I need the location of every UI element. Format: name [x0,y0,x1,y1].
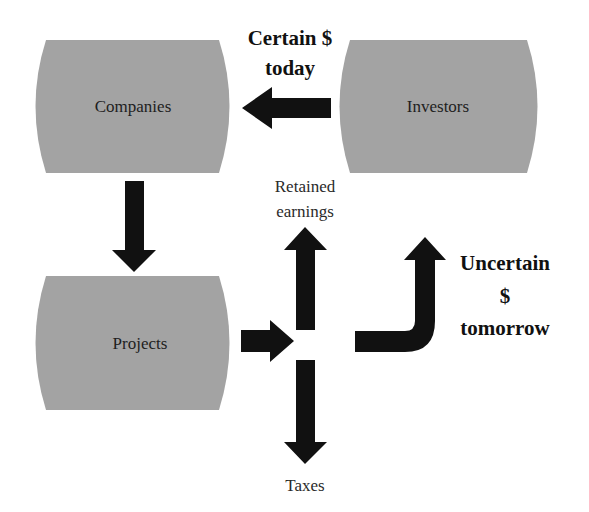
certain-today-label-line2: today [265,56,316,80]
retained-earnings-label-line1: Retained [275,177,336,196]
right-arrow-icon [241,320,294,362]
investors-to-companies-flow: Certain $ today [242,26,332,129]
companies-label: Companies [95,97,172,116]
down-arrow-icon [284,360,327,464]
taxes-flow: Taxes [284,360,327,495]
investors-label: Investors [407,97,469,116]
uncertain-tomorrow-label-line1: Uncertain [460,251,550,275]
projects-to-split-flow [241,320,294,362]
companies-node: Companies [36,40,230,173]
retained-earnings-label-line2: earnings [276,202,334,221]
projects-label: Projects [113,334,168,353]
retained-earnings-flow: Retained earnings [275,177,336,330]
return-to-investors-flow: Uncertain $ tomorrow [355,237,551,352]
left-arrow-icon [242,87,331,129]
curved-up-arrow-icon [355,237,446,352]
down-arrow-icon [112,181,156,272]
financial-flow-diagram: Companies Investors Projects Certain $ t… [0,0,589,512]
uncertain-tomorrow-label-line2: $ [500,284,511,308]
investors-node: Investors [340,40,538,173]
companies-to-projects-flow [112,181,156,272]
certain-today-label-line1: Certain $ [248,26,333,50]
taxes-label: Taxes [285,476,324,495]
projects-node: Projects [36,276,230,410]
up-arrow-icon [284,227,327,330]
uncertain-tomorrow-label-line3: tomorrow [460,316,550,340]
